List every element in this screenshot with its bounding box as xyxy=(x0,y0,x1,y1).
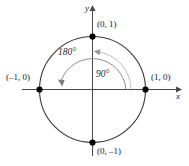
angle-label-180: 180° xyxy=(58,48,76,58)
y-axis-label: y xyxy=(85,4,89,13)
point-label-right: (1, 0) xyxy=(151,73,171,82)
angle-label-90: 90° xyxy=(96,70,109,80)
angle-arc-180-path xyxy=(61,59,126,90)
point-label-bottom: (0, –1) xyxy=(97,147,121,156)
angle-arc-180-arrowhead-icon xyxy=(58,80,65,87)
point-marker-bottom xyxy=(89,139,95,145)
point-marker-right xyxy=(142,86,148,92)
unit-circle-drawing xyxy=(0,0,189,166)
angle-arc-180 xyxy=(58,59,126,90)
point-marker-left xyxy=(36,86,42,92)
angle-arc-90-arrowhead-icon xyxy=(94,49,101,55)
y-axis-arrowhead-icon xyxy=(90,5,96,11)
unit-circle-figure: (0, 1) (1, 0) (–1, 0) (0, –1) y x 180° 9… xyxy=(0,0,189,166)
point-marker-top xyxy=(89,33,95,39)
point-label-top: (0, 1) xyxy=(97,20,117,29)
y-axis xyxy=(90,5,96,156)
x-axis xyxy=(22,87,182,93)
point-label-left: (–1, 0) xyxy=(6,73,30,82)
x-axis-label: x xyxy=(176,92,180,101)
